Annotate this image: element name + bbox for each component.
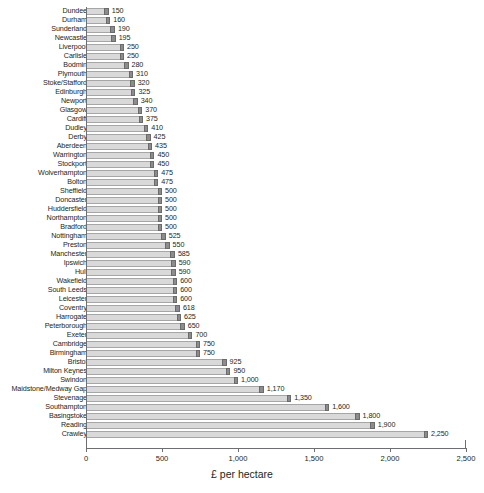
bar-rows-container: Dundee150Durham160Sunderland190Newcastle… [0,7,484,439]
x-axis-tick [86,448,87,452]
bar-value-label: 750 [203,348,215,357]
bar-body [86,404,329,411]
bar-value-label: 1,000 [241,375,259,384]
bar-end-cap [150,152,155,159]
bar-value-label: 410 [151,123,163,132]
category-label: Northampton [0,213,87,222]
bar [86,35,116,42]
bar-body [86,395,291,402]
category-label: Crawley [0,429,87,438]
bar-body [86,251,175,258]
bar-end-cap [130,80,135,87]
category-label: Basingstoke [0,411,87,420]
bar-end-cap [158,197,163,204]
bar-value-label: 370 [145,105,157,114]
category-label: Dundee [0,6,87,15]
bar-end-cap [154,170,159,177]
bar-body [86,341,200,348]
bar-value-label: 500 [165,204,177,213]
bar [86,116,143,123]
category-label: Glasgow [0,105,87,114]
category-label: Manchester [0,249,87,258]
bar-end-cap [158,215,163,222]
category-label: Sunderland [0,24,87,33]
bar-end-cap [154,179,159,186]
bar-body [86,260,176,267]
bar [86,260,176,267]
bar-end-cap [170,251,175,258]
bar-end-cap [165,242,170,249]
bar-body [86,431,428,438]
bar-body [86,44,124,51]
category-label: Maidstone/Medway Gap [0,384,87,393]
category-label: Carlisle [0,51,87,60]
bar-end-cap [234,377,239,384]
bar-end-cap [180,323,185,330]
bar-end-cap [131,89,136,96]
category-label: Bradford [0,222,87,231]
bar-body [86,224,162,231]
bar-body [86,314,181,321]
bar-end-cap [120,53,125,60]
bar-body [86,71,133,78]
bar-end-cap [158,188,163,195]
bar-end-cap [173,278,178,285]
bar-end-cap [355,413,360,420]
bar-value-label: 650 [188,321,200,330]
category-label: Ipswich [0,258,87,267]
x-axis-tick [162,448,163,452]
category-label: Aberdeen [0,141,87,150]
bar-end-cap [120,44,125,51]
bar-value-label: 375 [146,114,158,123]
bar [86,413,360,420]
category-label: Harrogate [0,312,87,321]
bar-body [86,350,200,357]
bar [86,323,185,330]
bar-value-label: 618 [183,303,195,312]
bar-value-label: 590 [179,267,191,276]
bar [86,278,177,285]
bar [86,233,166,240]
category-label: Milton Keynes [0,366,87,375]
bar-value-label: 750 [203,339,215,348]
bar-body [86,368,230,375]
bar-body [86,215,162,222]
bar-end-cap [173,296,178,303]
bar-body [86,179,158,186]
bar [86,251,175,258]
bar-end-cap [124,62,129,69]
category-label: Reading [0,420,87,429]
bar [86,332,192,339]
bar-body [86,170,158,177]
bar-body [86,278,177,285]
category-label: Plymouth [0,69,87,78]
horizontal-bar-chart: Dundee150Durham160Sunderland190Newcastle… [0,0,484,493]
x-axis-right-end [465,440,466,449]
x-axis-tick [466,448,467,452]
category-label: Bodmin [0,60,87,69]
bar-value-label: 1,800 [363,411,381,420]
bar-value-label: 450 [157,150,169,159]
bar [86,80,135,87]
category-label: South Leeds [0,285,87,294]
bar-body [86,359,227,366]
category-label: Stoke/Stafford [0,78,87,87]
category-label: Derby [0,132,87,141]
bar-row: Crawley2,250 [0,430,484,439]
bar-body [86,134,151,141]
bar-value-label: 500 [165,222,177,231]
bar-value-label: 250 [127,42,139,51]
category-label: Cardiff [0,114,87,123]
category-label: Edinburgh [0,87,87,96]
bar-value-label: 500 [165,186,177,195]
bar-end-cap [144,125,149,132]
bar-value-label: 1,600 [332,402,350,411]
bar-end-cap [173,287,178,294]
bar [86,287,177,294]
bar-value-label: 600 [180,276,192,285]
bar-body [86,116,143,123]
bar [86,17,110,24]
bar-body [86,296,177,303]
bar-body [86,143,152,150]
bar-body [86,188,162,195]
